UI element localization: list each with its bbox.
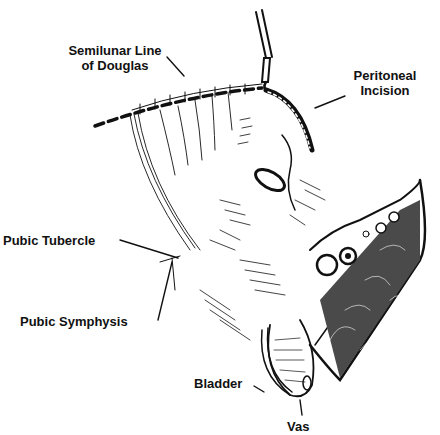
label-bladder: Bladder [194,376,242,391]
label-semilunar-line: Semilunar Line of Douglas [54,43,176,73]
label-vas: Vas [287,419,309,434]
label-peritoneal-incision: Peritoneal Incision [345,68,425,98]
label-line: of Douglas [54,58,176,73]
label-line: Incision [345,83,425,98]
label-pubic-tubercle: Pubic Tubercle [3,233,95,248]
internal-ring [252,165,288,195]
spermatic-cord-cross-section [310,180,425,380]
label-pubic-symphysis: Pubic Symphysis [20,314,128,329]
label-line: Semilunar Line [54,43,176,58]
peritoneal-incision-curve [266,90,312,150]
label-line: Peritoneal [345,68,425,83]
retractor-instrument [256,10,272,92]
bladder [262,320,314,396]
